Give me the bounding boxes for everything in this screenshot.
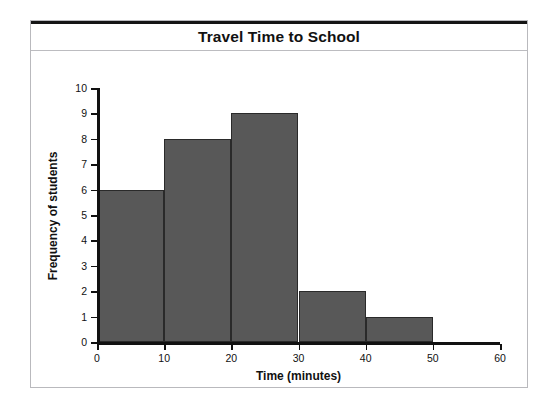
y-tick-label-3: 3 <box>65 260 87 272</box>
y-tick-8 <box>91 139 97 141</box>
y-tick-label-4: 4 <box>65 234 87 246</box>
y-axis-title-wrap: Frequency of students <box>45 88 61 344</box>
x-tick-20 <box>231 344 233 350</box>
y-tick-9 <box>91 113 97 115</box>
y-tick-7 <box>91 164 97 166</box>
y-axis-line <box>97 88 100 344</box>
y-tick-label-7: 7 <box>65 158 87 170</box>
y-tick-label-2: 2 <box>65 285 87 297</box>
y-tick-label-5: 5 <box>65 209 87 221</box>
x-tick-10 <box>164 344 166 350</box>
y-tick-label-0: 0 <box>65 336 87 348</box>
y-tick-label-6: 6 <box>65 184 87 196</box>
y-axis-title: Frequency of students <box>46 152 60 281</box>
x-tick-0 <box>97 344 99 350</box>
x-tick-30 <box>299 344 301 350</box>
x-tick-50 <box>433 344 435 350</box>
x-tick-label-30: 30 <box>284 352 314 364</box>
x-tick-label-40: 40 <box>351 352 381 364</box>
x-tick-60 <box>500 344 502 350</box>
y-tick-label-8: 8 <box>65 133 87 145</box>
y-tick-2 <box>91 291 97 293</box>
x-tick-40 <box>366 344 368 350</box>
y-axis-tick-labels: 012345678910 <box>63 52 87 388</box>
page-title: Travel Time to School <box>198 28 360 46</box>
x-tick-label-50: 50 <box>418 352 448 364</box>
bar-20-30 <box>231 113 298 342</box>
x-axis-title: Time (minutes) <box>97 369 500 383</box>
chart-figure: Travel Time to School 012345678910 01020… <box>30 20 528 388</box>
x-tick-label-10: 10 <box>149 352 179 364</box>
x-tick-label-0: 0 <box>82 352 112 364</box>
y-tick-1 <box>91 317 97 319</box>
x-tick-label-60: 60 <box>485 352 515 364</box>
bar-30-40 <box>299 291 366 342</box>
bar-series <box>31 52 527 388</box>
bar-40-50 <box>366 317 433 342</box>
plot-area: 012345678910 0102030405060 Time (minutes… <box>31 52 527 388</box>
y-tick-5 <box>91 215 97 217</box>
bar-0-10 <box>97 190 164 342</box>
y-tick-6 <box>91 190 97 192</box>
x-tick-label-20: 20 <box>216 352 246 364</box>
y-tick-label-1: 1 <box>65 311 87 323</box>
chart-title-band: Travel Time to School <box>31 24 527 51</box>
y-tick-3 <box>91 266 97 268</box>
y-tick-10 <box>91 88 97 90</box>
y-tick-4 <box>91 240 97 242</box>
y-tick-label-9: 9 <box>65 107 87 119</box>
bar-10-20 <box>164 139 231 342</box>
y-tick-label-10: 10 <box>65 82 87 94</box>
